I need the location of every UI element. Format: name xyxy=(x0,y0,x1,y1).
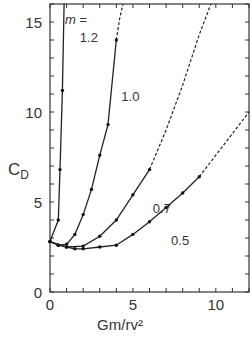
series-label: 0.7 xyxy=(153,201,171,216)
x-axis-label: Gm/rv² xyxy=(97,316,143,333)
series-m-1.2: 1.2 xyxy=(48,4,98,243)
data-point xyxy=(115,38,118,41)
legend-title: m = xyxy=(65,12,87,27)
y-tick-label: 5 xyxy=(34,194,42,211)
data-point xyxy=(181,191,184,194)
x-tick-label: 0 xyxy=(46,296,54,313)
data-point xyxy=(98,235,101,238)
series-label: 1.2 xyxy=(80,30,98,45)
data-point xyxy=(148,168,151,171)
series-label: 0.5 xyxy=(171,233,189,248)
data-point xyxy=(61,89,64,92)
data-point xyxy=(73,233,76,236)
series-group: 1.21.00.70.5m = xyxy=(48,4,249,251)
x-tick-label: 5 xyxy=(129,296,137,313)
data-point xyxy=(106,123,109,126)
data-point xyxy=(81,247,84,250)
data-point xyxy=(148,220,151,223)
data-point xyxy=(81,213,84,216)
data-point xyxy=(57,218,60,221)
axes: 0510051015 xyxy=(25,4,249,313)
series-m-0.5: 0.5 xyxy=(48,112,249,251)
y-tick-label: 15 xyxy=(25,14,42,31)
data-point xyxy=(90,188,93,191)
dashed-curve xyxy=(199,112,249,177)
data-point xyxy=(115,244,118,247)
data-point xyxy=(65,245,68,248)
data-point xyxy=(98,154,101,157)
data-point xyxy=(73,247,76,250)
series-label: 1.0 xyxy=(121,89,139,104)
x-tick-label: 10 xyxy=(207,296,224,313)
y-axis-label: CD xyxy=(8,160,29,182)
y-tick-label: 10 xyxy=(25,104,42,121)
chart: 0510051015 1.21.00.70.5m = CD Gm/rv² xyxy=(0,0,252,339)
y-tick-label: 0 xyxy=(34,284,42,301)
data-point xyxy=(131,233,134,236)
dashed-curve xyxy=(150,4,211,170)
data-point xyxy=(58,168,61,171)
data-point xyxy=(115,218,118,221)
dashed-curve xyxy=(116,4,123,40)
data-point xyxy=(164,206,167,209)
series-m-0.7: 0.7 xyxy=(48,4,211,249)
data-point xyxy=(48,240,51,243)
data-point xyxy=(198,175,201,178)
data-point xyxy=(131,193,134,196)
data-point xyxy=(98,245,101,248)
